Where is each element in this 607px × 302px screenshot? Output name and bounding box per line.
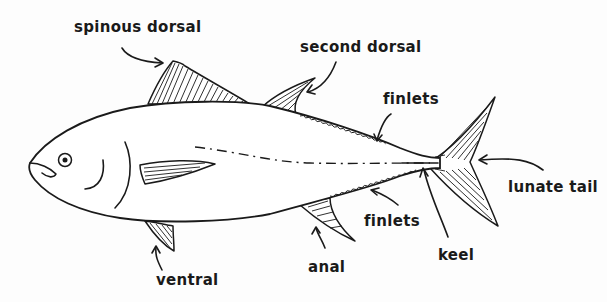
label-anal: anal [308,258,345,276]
label-finlets-top: finlets [383,90,439,108]
ventral-fin [145,221,174,251]
arrow-second-dorsal [308,62,336,92]
label-finlets-bottom: finlets [364,212,420,230]
arrow-finlets-top [377,114,391,140]
arrow-finlets-bottom [372,190,398,205]
eye [59,154,72,167]
arrow-spinous-dorsal [122,48,162,63]
spinous-dorsal-fin [148,61,250,104]
fish-body [29,102,440,222]
label-second-dorsal: second dorsal [300,38,421,56]
label-spinous-dorsal: spinous dorsal [74,18,201,36]
arrow-lunate-tail [480,159,543,170]
arrow-anal [316,228,325,248]
label-ventral: ventral [156,271,219,289]
label-lunate-tail: lunate tail [508,178,598,196]
label-keel: keel [438,246,474,264]
fish-anatomy-diagram: spinous dorsal second dorsal finlets lun… [0,0,607,302]
